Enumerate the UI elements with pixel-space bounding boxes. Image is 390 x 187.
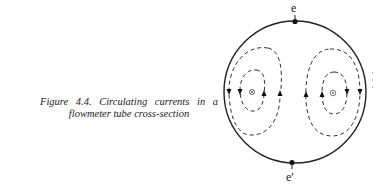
arrow-down-icon xyxy=(238,89,243,95)
scan-artifact xyxy=(372,72,373,88)
arrow-down-icon xyxy=(227,89,232,95)
right-inner-loop xyxy=(322,72,347,114)
electrode-top xyxy=(292,15,297,24)
electrode-bottom-label: e′ xyxy=(286,170,294,184)
arrow-up-icon xyxy=(320,91,325,97)
left-inner-loop xyxy=(240,70,265,111)
electrode-bottom xyxy=(289,160,294,169)
arrow-up-icon xyxy=(304,91,309,97)
left-outer-loop xyxy=(229,48,281,135)
arrow-up-icon xyxy=(262,90,267,96)
flow-out-of-page-icon xyxy=(330,90,336,96)
flow-into-page-icon xyxy=(249,89,254,94)
arrow-down-icon xyxy=(358,89,363,95)
tube-wall xyxy=(224,21,366,163)
flowmeter-cross-section-diagram: e e′ xyxy=(0,0,390,187)
arrow-up-icon xyxy=(278,90,283,96)
electrode-top-label: e xyxy=(291,1,296,15)
arrow-down-icon xyxy=(345,89,350,95)
